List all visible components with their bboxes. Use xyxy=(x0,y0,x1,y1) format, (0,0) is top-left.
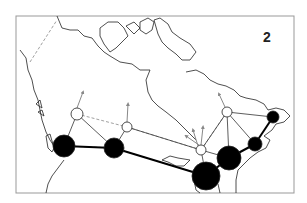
node-north-east xyxy=(222,107,232,117)
canada-network-map xyxy=(0,0,307,203)
node-east-mid xyxy=(248,137,262,151)
node-north-west xyxy=(71,108,83,120)
panel-number-label: 2 xyxy=(263,29,271,45)
node-west-coast xyxy=(53,135,75,157)
node-great-lakes-south xyxy=(192,162,220,190)
node-north-prairie xyxy=(122,122,132,132)
node-st-lawrence xyxy=(217,146,241,170)
node-east-north xyxy=(267,111,279,123)
node-north-lakes xyxy=(196,145,206,155)
map-frame xyxy=(16,16,294,193)
node-prairie-west xyxy=(104,138,124,158)
